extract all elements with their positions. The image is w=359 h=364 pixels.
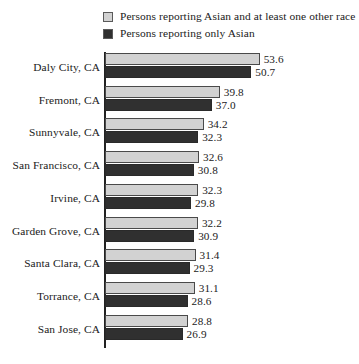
bar-value-label: 39.8 bbox=[224, 85, 244, 99]
bar-value-label: 28.8 bbox=[192, 314, 212, 328]
bar[interactable] bbox=[105, 66, 251, 78]
legend-swatch-icon-mixed-asian bbox=[103, 12, 113, 22]
plot-area: Daly City, CA53.650.7Fremont, CA39.837.0… bbox=[0, 52, 359, 352]
bar[interactable] bbox=[105, 151, 199, 163]
legend-label-only-asian: Persons reporting only Asian bbox=[120, 27, 255, 40]
category-label: Daly City, CA bbox=[0, 59, 100, 75]
bar-group: Torrance, CA31.128.6 bbox=[0, 281, 359, 313]
bar[interactable] bbox=[105, 118, 204, 130]
bar[interactable] bbox=[105, 99, 212, 111]
bar-value-label: 29.3 bbox=[194, 261, 214, 275]
category-label: Garden Grove, CA bbox=[0, 223, 100, 239]
bar[interactable] bbox=[105, 249, 196, 261]
bar[interactable] bbox=[105, 295, 188, 307]
legend-label-mixed-asian: Persons reporting Asian and at least one… bbox=[120, 10, 355, 23]
bar-group: Fremont, CA39.837.0 bbox=[0, 85, 359, 117]
category-label: San Francisco, CA bbox=[0, 157, 100, 173]
bar[interactable] bbox=[105, 262, 190, 274]
bar-value-label: 30.8 bbox=[198, 163, 218, 177]
bar-value-label: 29.8 bbox=[195, 196, 215, 210]
chart-legend: Persons reporting Asian and at least one… bbox=[103, 9, 359, 43]
bar[interactable] bbox=[105, 131, 198, 143]
bar-value-label: 32.6 bbox=[203, 150, 223, 164]
bar[interactable] bbox=[105, 164, 194, 176]
bar[interactable] bbox=[105, 86, 220, 98]
bar[interactable] bbox=[105, 217, 198, 229]
bar-group: Daly City, CA53.650.7 bbox=[0, 52, 359, 84]
category-label: Torrance, CA bbox=[0, 288, 100, 304]
bar-value-label: 53.6 bbox=[264, 52, 284, 66]
bar-value-label: 28.6 bbox=[192, 294, 212, 308]
bar-value-label: 32.3 bbox=[202, 183, 222, 197]
category-label: Fremont, CA bbox=[0, 92, 100, 108]
category-label: Sunnyvale, CA bbox=[0, 124, 100, 140]
bar-value-label: 31.4 bbox=[200, 248, 220, 262]
bar[interactable] bbox=[105, 53, 260, 65]
bar-value-label: 32.3 bbox=[202, 130, 222, 144]
bar[interactable] bbox=[105, 328, 183, 340]
bar-value-label: 30.9 bbox=[198, 229, 218, 243]
bar-group: Garden Grove, CA32.230.9 bbox=[0, 216, 359, 248]
bar-value-label: 31.1 bbox=[199, 281, 219, 295]
category-label: Santa Clara, CA bbox=[0, 255, 100, 271]
bar[interactable] bbox=[105, 315, 188, 327]
bar[interactable] bbox=[105, 230, 194, 242]
bar-value-label: 32.2 bbox=[202, 216, 222, 230]
bar-group: San Jose, CA28.826.9 bbox=[0, 314, 359, 346]
bar-value-label: 37.0 bbox=[216, 98, 236, 112]
bar-value-label: 26.9 bbox=[187, 327, 207, 341]
legend-item-mixed-asian: Persons reporting Asian and at least one… bbox=[103, 9, 359, 24]
legend-item-only-asian: Persons reporting only Asian bbox=[103, 26, 359, 41]
category-label: San Jose, CA bbox=[0, 321, 100, 337]
bar-chart: Persons reporting Asian and at least one… bbox=[0, 0, 359, 364]
bar[interactable] bbox=[105, 197, 191, 209]
category-label: Irvine, CA bbox=[0, 190, 100, 206]
bar-group: Santa Clara, CA31.429.3 bbox=[0, 248, 359, 280]
bar[interactable] bbox=[105, 282, 195, 294]
bar-group: Irvine, CA32.329.8 bbox=[0, 183, 359, 215]
bar-group: San Francisco, CA32.630.8 bbox=[0, 150, 359, 182]
bar-value-label: 34.2 bbox=[208, 117, 228, 131]
bar-group: Sunnyvale, CA34.232.3 bbox=[0, 117, 359, 149]
bar[interactable] bbox=[105, 184, 198, 196]
bar-value-label: 50.7 bbox=[255, 65, 275, 79]
legend-swatch-icon-only-asian bbox=[103, 29, 113, 39]
